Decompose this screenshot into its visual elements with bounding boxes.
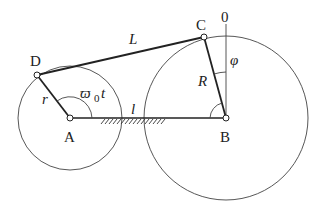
label-R: R bbox=[197, 73, 207, 89]
label-origin: 0 bbox=[221, 9, 229, 25]
joint-b bbox=[223, 115, 229, 121]
angle-arc-b bbox=[210, 103, 222, 118]
label-b: B bbox=[220, 129, 230, 145]
label-a: A bbox=[64, 129, 75, 145]
angle-arc-phi bbox=[214, 72, 226, 74]
joint-c bbox=[201, 34, 207, 40]
link-L bbox=[37, 37, 204, 75]
joint-a bbox=[67, 115, 73, 121]
label-d: D bbox=[30, 53, 41, 69]
label-L: L bbox=[128, 31, 137, 47]
linkage-diagram: A B C D 0 r L R l φ ϖ 0 t bbox=[0, 0, 316, 210]
label-r: r bbox=[42, 91, 48, 107]
joint-d bbox=[34, 72, 40, 78]
label-phi: φ bbox=[230, 52, 238, 68]
label-c: C bbox=[196, 17, 206, 33]
label-l: l bbox=[131, 101, 135, 117]
svg-text:ϖ: ϖ bbox=[80, 85, 91, 101]
svg-text:t: t bbox=[101, 85, 106, 101]
ground-hatch bbox=[101, 119, 165, 124]
svg-text:0: 0 bbox=[94, 92, 100, 104]
link-R bbox=[204, 37, 226, 118]
